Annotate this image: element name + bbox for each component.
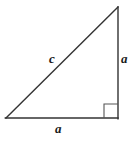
triangle-svg [0, 0, 135, 142]
horizontal-leg-label: a [55, 122, 62, 135]
right-triangle-figure: c a a [0, 0, 135, 142]
hypotenuse-line [6, 7, 118, 118]
right-angle-marker-icon [104, 104, 118, 118]
hypotenuse-label: c [49, 52, 55, 65]
vertical-leg-label: a [121, 52, 128, 65]
